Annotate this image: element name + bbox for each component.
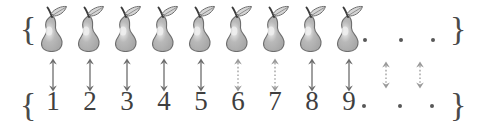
pear-icon [73, 4, 107, 52]
bottom-set-close-brace: } [450, 88, 466, 122]
natural-number-5: 5 [188, 88, 214, 115]
bottom-ellipsis-dot [430, 104, 434, 108]
natural-number-6: 6 [225, 88, 251, 115]
natural-number-1: 1 [40, 88, 66, 115]
pear-icon [258, 4, 292, 52]
top-set-open-brace: { [20, 12, 36, 46]
top-ellipsis-dot [399, 38, 403, 42]
natural-number-2: 2 [77, 88, 103, 115]
natural-number-7: 7 [262, 88, 288, 115]
natural-number-4: 4 [151, 88, 177, 115]
double-headed-arrow-icon [411, 61, 429, 89]
bottom-set-open-brace: { [20, 88, 36, 122]
pear-icon [295, 4, 329, 52]
top-set-close-brace: } [450, 12, 466, 46]
pear-icon [147, 4, 181, 52]
bottom-ellipsis-dot [362, 104, 366, 108]
double-headed-arrow-icon [377, 61, 395, 89]
pear-icon [184, 4, 218, 52]
top-ellipsis-dot [431, 38, 435, 42]
bijection-figure: { } { } 123456789 [0, 0, 485, 124]
pear-icon [110, 4, 144, 52]
pear-icon [221, 4, 255, 52]
pear-icon [36, 4, 70, 52]
bottom-ellipsis-dot [398, 104, 402, 108]
pear-icon [332, 4, 366, 52]
top-ellipsis-dot [363, 38, 367, 42]
natural-number-9: 9 [336, 88, 362, 115]
natural-number-3: 3 [114, 88, 140, 115]
natural-number-8: 8 [299, 88, 325, 115]
